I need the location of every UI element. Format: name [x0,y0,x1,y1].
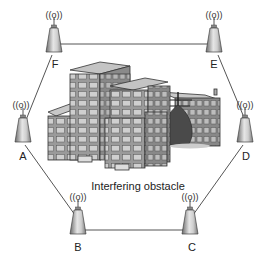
tower-a: ((ǫ)) [13,100,32,142]
interfering-obstacle-buildings [48,62,220,170]
node-label-c: C [188,242,196,253]
link-a-f [26,55,52,120]
tower-c: ((ǫ)) [182,192,199,234]
tower-d: ((ǫ)) [237,100,254,142]
tower-b: ((ǫ)) [70,192,87,234]
obstacle-caption: Interfering obstacle [0,180,268,192]
network-diagram: ((ǫ)) ((ǫ)) ((ǫ)) ((ǫ)) ((ǫ)) [0,0,268,266]
node-label-d: D [242,151,250,162]
tower-f: ((ǫ)) [46,10,63,52]
node-label-f: F [52,59,59,70]
obstacle-caption-text: Interfering obstacle [91,180,185,192]
node-label-e: E [210,59,217,70]
node-label-a: A [19,151,26,162]
node-label-b: B [74,242,81,253]
tower-e: ((ǫ)) [206,10,223,52]
signal-icon: ((ǫ)) [13,100,30,110]
